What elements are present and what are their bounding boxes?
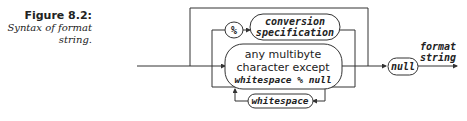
null-label: null xyxy=(391,61,415,72)
whitespace-label: whitespace xyxy=(251,95,308,106)
null-node: null xyxy=(388,58,418,75)
multibyte-character-node: any multibyte character except whitespac… xyxy=(225,44,342,89)
whitespace-node: whitespace xyxy=(248,94,313,108)
syntax-diagram: % conversion specification any multibyte… xyxy=(0,0,467,121)
output-label-line2: string xyxy=(420,52,456,63)
multibyte-label-line1: any multibyte xyxy=(245,48,322,61)
conversion-label-line2: specification xyxy=(256,27,334,38)
output-label-line1: format xyxy=(420,41,456,52)
output: format string xyxy=(418,41,457,66)
multibyte-label-line2: character except xyxy=(236,61,330,74)
percent-label: % xyxy=(231,25,237,36)
percent-node: % xyxy=(225,22,243,38)
conversion-label-line1: conversion xyxy=(265,16,325,27)
conversion-specification-node: conversion specification xyxy=(250,14,340,40)
multibyte-label-line3: whitespace % null xyxy=(234,74,331,85)
